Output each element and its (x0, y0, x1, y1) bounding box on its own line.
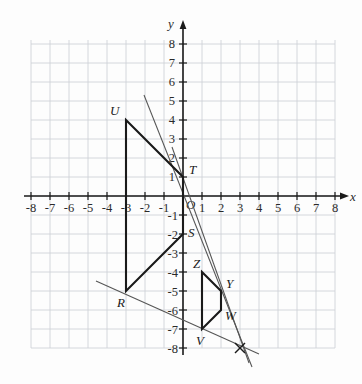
y-tick-5: 5 (169, 94, 175, 108)
point-label-S: S (188, 225, 195, 240)
point-label-T: T (189, 162, 197, 177)
x-tick-4: 4 (256, 201, 263, 215)
canvas-background (0, 0, 362, 384)
y-tick--4: -4 (168, 266, 179, 280)
x-tick--6: -6 (64, 201, 74, 215)
y-tick-8: 8 (169, 37, 175, 51)
y-tick-7: 7 (169, 56, 175, 70)
x-tick-3: 3 (237, 201, 243, 215)
y-tick--1: -1 (168, 209, 178, 223)
x-tick--5: -5 (83, 201, 93, 215)
y-tick-3: 3 (169, 132, 175, 146)
x-axis-label: x (349, 189, 356, 204)
y-axis-label: y (166, 16, 174, 31)
x-tick--2: -2 (140, 201, 150, 215)
x-tick-2: 2 (218, 201, 224, 215)
y-tick--8: -8 (168, 342, 178, 356)
figure-canvas: x y O -8 - (0, 0, 362, 384)
y-tick--7: -7 (168, 323, 178, 337)
x-tick-5: 5 (275, 201, 281, 215)
point-label-Z: Z (193, 256, 201, 271)
x-tick--7: -7 (45, 201, 55, 215)
x-tick-7: 7 (313, 201, 319, 215)
x-tick-8: 8 (332, 201, 338, 215)
point-label-R: R (116, 295, 125, 310)
point-label-W: W (225, 308, 237, 323)
y-tick-6: 6 (169, 75, 175, 89)
y-tick-4: 4 (169, 113, 176, 127)
x-tick--4: -4 (102, 201, 113, 215)
x-tick-6: 6 (294, 201, 300, 215)
x-tick-1: 1 (199, 201, 205, 215)
y-tick--5: -5 (168, 285, 178, 299)
point-label-U: U (110, 103, 121, 118)
coordinate-plane-svg: x y O -8 - (0, 0, 362, 384)
x-tick--8: -8 (26, 201, 36, 215)
